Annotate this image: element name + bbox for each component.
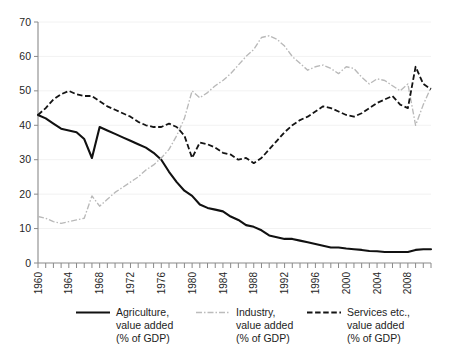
x-tick-label: 1976 [156, 272, 167, 295]
x-tick-label: 1968 [94, 272, 105, 295]
x-tick-label: 1960 [33, 272, 44, 295]
y-tick-label: 50 [19, 84, 31, 96]
legend-label: Services etc., [347, 306, 410, 318]
legend-label: value added [347, 319, 404, 331]
y-axis-ticks [34, 22, 38, 263]
series-line-agriculture [38, 115, 431, 252]
legend-label: (% of GDP) [116, 332, 170, 344]
x-tick-label: 1980 [187, 272, 198, 295]
series-line-services [38, 67, 431, 163]
gridlines [38, 22, 431, 229]
x-tick-label: 2000 [341, 272, 352, 295]
x-tick-label: 1972 [125, 272, 136, 295]
series-line-industry [38, 36, 431, 224]
y-tick-label: 10 [19, 222, 31, 234]
y-tick-label: 0 [25, 257, 31, 269]
y-tick-label: 20 [19, 188, 31, 200]
x-tick-label: 1964 [63, 272, 74, 295]
legend-label: Industry, [236, 306, 276, 318]
x-tick-label: 1984 [218, 272, 229, 295]
y-axis-labels: 010203040506070 [19, 16, 31, 269]
chart-legend: Agriculture,value added(% of GDP)Industr… [76, 306, 410, 344]
chart-container: 010203040506070 196019641968197219761980… [0, 0, 449, 356]
legend-label: value added [236, 319, 293, 331]
legend-label: value added [116, 319, 173, 331]
legend-label: (% of GDP) [236, 332, 290, 344]
x-tick-label: 1988 [248, 272, 259, 295]
x-tick-label: 1996 [310, 272, 321, 295]
x-axis-ticks [38, 263, 431, 268]
legend-label: Agriculture, [116, 306, 169, 318]
line-chart: 010203040506070 196019641968197219761980… [0, 0, 449, 356]
x-tick-label: 2004 [372, 272, 383, 295]
y-tick-label: 60 [19, 50, 31, 62]
x-tick-label: 1992 [279, 272, 290, 295]
x-tick-label: 2008 [402, 272, 413, 295]
y-tick-label: 30 [19, 153, 31, 165]
y-tick-label: 40 [19, 119, 31, 131]
legend-label: (% of GDP) [347, 332, 401, 344]
x-axis-labels: 1960196419681972197619801984198819921996… [33, 272, 414, 295]
y-tick-label: 70 [19, 16, 31, 28]
